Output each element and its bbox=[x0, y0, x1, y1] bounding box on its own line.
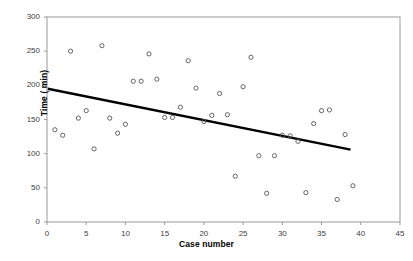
y-tick-label: 300 bbox=[12, 13, 40, 21]
y-tick-label: 250 bbox=[12, 47, 40, 55]
scatter-chart: 050100150200250300 051015202530354045 Ti… bbox=[0, 0, 413, 261]
x-tick-label: 20 bbox=[192, 230, 216, 238]
x-tick-label: 35 bbox=[310, 230, 334, 238]
x-tick-label: 15 bbox=[153, 230, 177, 238]
y-tick-label: 200 bbox=[12, 81, 40, 89]
y-tick-label: 50 bbox=[12, 184, 40, 192]
x-tick-label: 10 bbox=[113, 230, 137, 238]
x-tick-label: 5 bbox=[74, 230, 98, 238]
x-tick-label: 30 bbox=[270, 230, 294, 238]
x-tick-label: 45 bbox=[388, 230, 412, 238]
y-tick-label: 150 bbox=[12, 116, 40, 124]
plot-canvas bbox=[0, 0, 413, 261]
y-axis-title: Time ( min) bbox=[39, 53, 49, 133]
y-tick-label: 100 bbox=[12, 150, 40, 158]
x-tick-label: 0 bbox=[35, 230, 59, 238]
plot-area-border bbox=[47, 17, 400, 222]
x-tick-label: 40 bbox=[349, 230, 373, 238]
x-tick-label: 25 bbox=[231, 230, 255, 238]
plot-frame bbox=[47, 17, 400, 222]
y-tick-label: 0 bbox=[12, 218, 40, 226]
x-axis-title: Case number bbox=[0, 239, 413, 249]
